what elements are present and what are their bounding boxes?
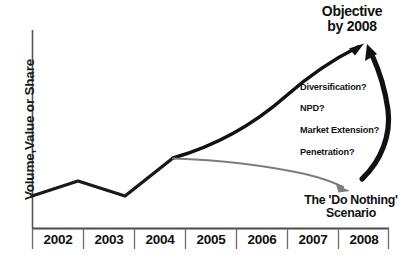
x-tick-label-2003: 2003 <box>84 232 134 247</box>
do-nothing-arrowhead <box>336 185 350 193</box>
objective-callout-line2: by 2008 <box>296 19 408 34</box>
series-do-nothing-line <box>173 159 343 188</box>
series-historical-line <box>32 158 173 196</box>
x-tick-label-2002: 2002 <box>33 232 83 247</box>
y-axis-title: Volume,Value or Share <box>22 45 37 215</box>
x-tick-label-2004: 2004 <box>135 232 185 247</box>
do-nothing-callout-line1: The 'Do Nothing' <box>304 193 397 207</box>
series-objective-growth-curve <box>173 47 358 158</box>
objective-curve-arrowhead <box>349 44 364 56</box>
do-nothing-callout-line2: Scenario <box>292 207 410 220</box>
strategy-label-market-extension: Market Extension? <box>300 126 379 136</box>
x-tick-label-2007: 2007 <box>288 232 338 247</box>
x-tick-label-2008: 2008 <box>339 232 389 247</box>
do-nothing-callout: The 'Do Nothing' Scenario <box>292 194 410 221</box>
strategy-options-arrow <box>362 55 389 179</box>
strategy-label-npd: NPD? <box>300 104 324 114</box>
objective-callout: Objective by 2008 <box>296 4 408 34</box>
objective-callout-line1: Objective <box>322 3 382 19</box>
strategy-label-penetration: Penetration? <box>300 148 354 158</box>
growth-strategy-chart: Volume,Value or Share 2002 2003 2004 200… <box>0 0 410 269</box>
strategy-label-diversification: Diversification? <box>300 83 367 93</box>
x-tick-label-2006: 2006 <box>237 232 287 247</box>
x-tick-label-2005: 2005 <box>186 232 236 247</box>
